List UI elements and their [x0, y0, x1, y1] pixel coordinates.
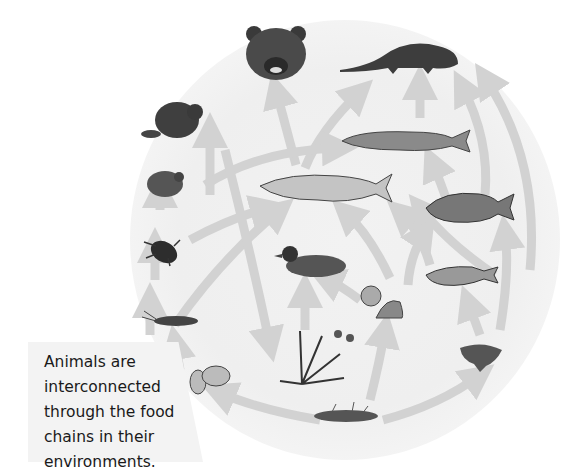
water-beetle: [140, 232, 186, 272]
trout: [258, 170, 394, 210]
protozoa-icon: [188, 362, 232, 398]
beaver: [143, 98, 205, 140]
duck: [272, 244, 348, 278]
perch: [424, 263, 500, 289]
shrimp-icon: [456, 340, 510, 374]
shrimp: [456, 340, 510, 374]
snail-icon: [372, 296, 406, 322]
caption-line: environments.: [44, 450, 194, 471]
carp-icon: [424, 188, 516, 226]
bear-icon: [240, 22, 312, 82]
pike-icon: [340, 126, 472, 156]
otter-icon: [338, 36, 460, 76]
carp: [424, 188, 516, 226]
protozoa: [188, 362, 232, 398]
pike: [340, 126, 472, 156]
caption-line: Animals are: [44, 350, 194, 375]
bear: [240, 22, 312, 82]
caption-line: chains in their: [44, 425, 194, 450]
larva-icon: [142, 307, 208, 331]
caption-line: interconnected: [44, 375, 194, 400]
otter: [338, 36, 460, 76]
water-plant: [280, 326, 360, 386]
caption-text: Animals are interconnected through the f…: [44, 350, 194, 471]
beetle-icon: [140, 232, 186, 272]
frog-icon: [145, 168, 189, 200]
caption-line: through the food: [44, 400, 194, 425]
snail: [372, 296, 406, 322]
detritus-icon: [312, 402, 380, 424]
plant-icon: [280, 326, 360, 386]
frog: [145, 168, 189, 200]
detritus: [312, 402, 380, 424]
perch-icon: [424, 263, 500, 289]
insect-larva: [142, 307, 208, 331]
beaver-icon: [143, 98, 205, 140]
trout-icon: [258, 170, 394, 210]
duck-icon: [272, 244, 348, 278]
